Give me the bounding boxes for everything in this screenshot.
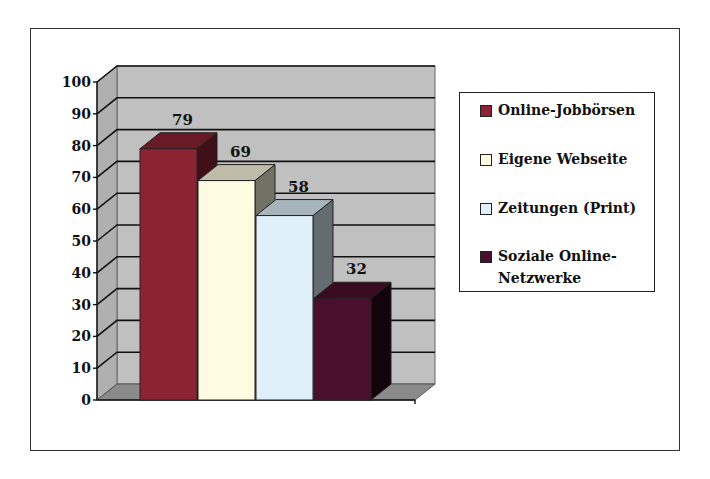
y-tick-label: 90 xyxy=(72,106,92,122)
bar-side xyxy=(371,282,391,400)
bar-3 xyxy=(256,216,313,400)
bar-4 xyxy=(314,298,371,400)
bar-1 xyxy=(140,149,197,400)
legend-swatch xyxy=(480,203,492,215)
legend-item-soziale-online-netzwerke: Soziale Online-Netzwerke xyxy=(480,245,617,289)
y-tick-label: 10 xyxy=(72,360,92,376)
bar-2 xyxy=(198,181,255,400)
data-label: 58 xyxy=(288,178,309,196)
y-tick-label: 60 xyxy=(72,201,92,217)
y-tick-label: 30 xyxy=(72,297,92,313)
legend-label: Zeitungen (Print) xyxy=(498,197,636,219)
y-tick-label: 20 xyxy=(72,328,92,344)
legend-item-eigene-webseite: Eigene Webseite xyxy=(480,148,627,170)
legend-swatch xyxy=(480,251,492,263)
y-tick-label: 50 xyxy=(72,233,92,249)
legend-label: Soziale Online-Netzwerke xyxy=(498,245,617,289)
data-label: 79 xyxy=(172,111,193,129)
y-tick-label: 40 xyxy=(72,265,92,281)
legend-item-online-jobboersen: Online-Jobbörsen xyxy=(480,99,635,121)
y-tick-label: 80 xyxy=(72,138,92,154)
y-tick-label: 70 xyxy=(72,169,92,185)
legend-swatch xyxy=(480,105,492,117)
legend-item-zeitungen-print: Zeitungen (Print) xyxy=(480,197,636,219)
y-tick-label: 0 xyxy=(81,392,91,408)
chart-legend: Online-Jobbörsen Eigene Webseite Zeitung… xyxy=(459,92,655,292)
data-label: 32 xyxy=(346,260,367,278)
legend-label: Online-Jobbörsen xyxy=(498,99,635,121)
y-tick-label: 100 xyxy=(62,74,91,90)
legend-label: Eigene Webseite xyxy=(498,148,627,170)
data-label: 69 xyxy=(230,143,251,161)
legend-swatch xyxy=(480,154,492,166)
